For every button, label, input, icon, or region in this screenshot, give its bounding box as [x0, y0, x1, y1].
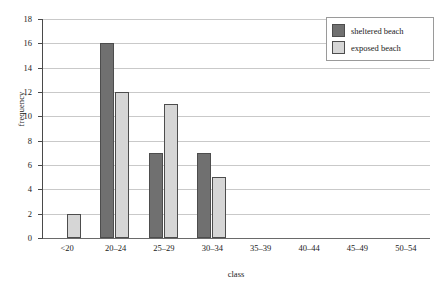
y-tick-label: 18	[24, 15, 33, 24]
y-tick-label: 4	[28, 185, 32, 194]
y-tick-label: 14	[24, 63, 33, 72]
legend-swatch-exposed-beach	[332, 41, 345, 54]
y-tick-label: 10	[24, 112, 33, 121]
bar-exposed-beach	[164, 104, 178, 238]
bar-group	[188, 19, 236, 238]
bar-sheltered-beach	[149, 153, 163, 238]
x-axis-title: class	[42, 269, 430, 279]
legend-item-sheltered-beach: sheltered beach	[332, 22, 428, 39]
legend-item-exposed-beach: exposed beach	[332, 39, 428, 56]
bar-exposed-beach	[67, 214, 81, 238]
y-tick-label: 0	[28, 234, 32, 243]
bar-sheltered-beach	[197, 153, 211, 238]
y-tick-label: 16	[24, 39, 33, 48]
bar-chart: frequency 024681012141618 <2020–2425–293…	[0, 0, 438, 282]
y-tick-label: 8	[28, 136, 32, 145]
y-tick-mark: 0	[38, 238, 43, 239]
legend-label-sheltered-beach: sheltered beach	[351, 26, 404, 36]
y-tick-label: 12	[24, 88, 33, 97]
bar-group	[237, 19, 285, 238]
legend: sheltered beach exposed beach	[326, 17, 434, 61]
x-axis-line	[42, 238, 430, 239]
bar-group	[140, 19, 188, 238]
y-axis-title: frequency	[16, 69, 26, 149]
bar-exposed-beach	[212, 177, 226, 238]
legend-swatch-sheltered-beach	[332, 24, 345, 37]
y-tick-label: 2	[28, 209, 32, 218]
y-tick-label: 6	[28, 161, 32, 170]
bar-group	[91, 19, 139, 238]
bar-sheltered-beach	[100, 43, 114, 238]
bar-exposed-beach	[115, 92, 129, 238]
x-tick-label: 50–54	[376, 243, 436, 253]
legend-label-exposed-beach: exposed beach	[351, 43, 401, 53]
bar-group	[43, 19, 91, 238]
